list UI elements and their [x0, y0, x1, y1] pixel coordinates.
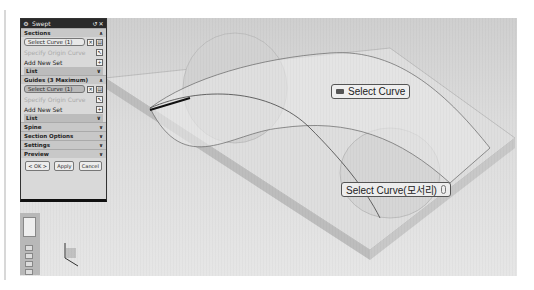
swept-dialog: ⚙ Swept ↺ ✕ Sections ∧ Select Curve (1) … [20, 18, 107, 202]
chevron-up-icon: ∧ [99, 77, 103, 83]
guides-list[interactable]: List ∨ [24, 114, 103, 122]
chevron-down-icon: ∨ [99, 151, 103, 157]
add-new-set-label: Add New Set [24, 59, 94, 66]
select-curve-edge-callout: Select Curve(모서리) [341, 182, 451, 197]
add-set-icon[interactable]: + [96, 106, 103, 113]
mouse-icon [336, 89, 344, 94]
sections-select-curve-button[interactable]: Select Curve (1) [24, 38, 85, 46]
toolbar-button[interactable] [25, 261, 33, 267]
origin-curve-icon[interactable]: ↖ [96, 49, 103, 56]
apply-button[interactable]: Apply [54, 161, 74, 171]
chevron-down-icon: ∨ [99, 124, 103, 130]
settings-header[interactable]: Settings∨ [21, 140, 106, 149]
chevron-down-icon: ∨ [97, 68, 101, 74]
spine-header[interactable]: Spine∨ [21, 122, 106, 131]
reverse-direction-icon[interactable]: ✕ [87, 86, 94, 93]
chevron-down-icon: ∨ [97, 115, 101, 121]
specify-origin-label: Specify Origin Curve [24, 49, 94, 56]
chevron-down-icon: ∨ [99, 133, 103, 139]
ok-button[interactable]: < OK > [25, 161, 50, 171]
dialog-footer: < OK > Apply Cancel [21, 158, 106, 174]
curve-rule-icon[interactable]: ▤ [96, 86, 103, 93]
guides-header[interactable]: Guides (3 Maximum) ∧ [21, 75, 106, 84]
dialog-titlebar: ⚙ Swept ↺ ✕ [21, 19, 106, 28]
guides-select-curve-row: Select Curve (1) ✕ ▤ [21, 84, 106, 94]
guides-add-set-row: Add New Set + [21, 104, 106, 114]
add-new-set-label: Add New Set [24, 106, 94, 113]
toolbar-button[interactable] [25, 245, 33, 251]
settings-icon[interactable]: ⚙ [23, 20, 29, 27]
sections-select-curve-row: Select Curve (1) ✕ ▤ [21, 37, 106, 47]
section-options-header[interactable]: Section Options∨ [21, 131, 106, 140]
toolbar-button[interactable] [25, 253, 33, 259]
guides-select-curve-button[interactable]: Select Curve (1) [24, 85, 85, 93]
curve-rule-icon[interactable]: ▤ [96, 39, 103, 46]
preview-header[interactable]: Preview∨ [21, 149, 106, 158]
resource-bar [20, 213, 40, 275]
sections-list[interactable]: List ∨ [24, 67, 103, 75]
mouse-icon [441, 185, 446, 194]
add-set-icon[interactable]: + [96, 59, 103, 66]
cancel-button[interactable]: Cancel [79, 161, 102, 171]
sections-specify-origin-row: Specify Origin Curve ↖ [21, 47, 106, 57]
page-margin-line [4, 10, 6, 280]
select-curve-callout: Select Curve [331, 84, 410, 99]
sections-header[interactable]: Sections ∧ [21, 28, 106, 37]
navigator-icon[interactable] [23, 217, 36, 237]
chevron-down-icon: ∨ [99, 142, 103, 148]
reverse-direction-icon[interactable]: ✕ [87, 39, 94, 46]
guides-specify-origin-row: Specify Origin Curve ↖ [21, 94, 106, 104]
chevron-up-icon: ∧ [99, 30, 103, 36]
specify-origin-label: Specify Origin Curve [24, 96, 94, 103]
toolbar-button[interactable] [25, 269, 33, 275]
origin-curve-icon[interactable]: ↖ [96, 96, 103, 103]
close-icon[interactable]: ✕ [98, 20, 104, 27]
dialog-title: Swept [32, 20, 92, 27]
sections-add-set-row: Add New Set + [21, 57, 106, 67]
